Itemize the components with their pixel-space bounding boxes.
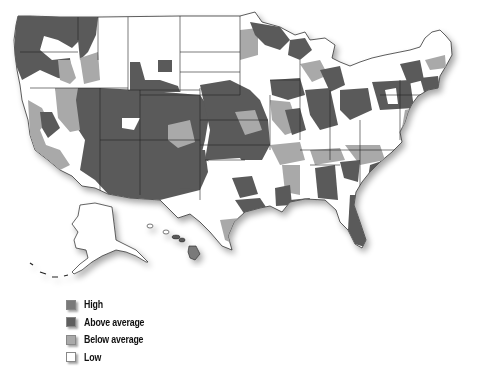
legend-label: Below average [84,334,143,345]
legend-label: Low [84,352,101,363]
map-legend: High Above average Below average Low [66,296,153,366]
hawaii [147,224,200,260]
high-swatch [66,300,76,310]
legend-item-above-average: Above average [66,314,153,332]
low-swatch [66,352,76,362]
below-average-swatch [66,335,76,345]
alaska [30,203,148,277]
legend-item-below-average: Below average [66,331,153,349]
legend-item-low: Low [66,349,153,367]
above-average-swatch [66,317,76,327]
legend-item-high: High [66,296,153,314]
legend-label: Above average [84,317,144,328]
legend-label: High [84,299,103,310]
